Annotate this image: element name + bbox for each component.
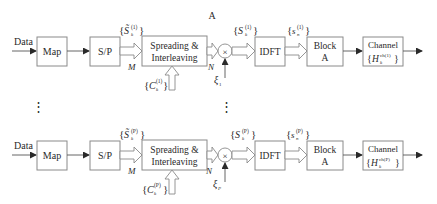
svg-text:n: n: [297, 32, 300, 37]
svg-text:C: C: [147, 184, 154, 195]
svg-text:k: k: [242, 136, 245, 141]
svg-text:k: k: [156, 87, 159, 92]
xi-signal-label: ξ 1: [214, 74, 222, 87]
data-input-label: Data: [14, 140, 33, 151]
multiplier-symbol: ×: [222, 47, 227, 57]
spreading-label-line1: Spreading &: [150, 145, 199, 155]
svg-text:n: n: [296, 136, 299, 141]
svg-text:}: }: [140, 128, 145, 140]
s-tilde-signal-label: { S̃ (1) k }: [119, 24, 144, 37]
s-signal-label: { S (1) k }: [233, 24, 258, 37]
spreading-label-line1: Spreading &: [150, 41, 199, 51]
title-label: A: [208, 10, 216, 21]
svg-text:H: H: [371, 54, 380, 64]
svg-text:(P): (P): [296, 128, 303, 135]
code-signal-label: { C (P) k }: [142, 182, 168, 196]
svg-text:(1): (1): [245, 24, 252, 31]
idft-to-block-a-bus-arrow: [285, 147, 307, 163]
n-label: N: [205, 166, 213, 176]
spreading-label-line2: Interleaving: [152, 157, 198, 167]
data-input-label: Data: [14, 36, 33, 47]
svg-text:s: s: [291, 130, 295, 140]
svg-text:ch(P): ch(P): [379, 157, 390, 162]
spreading-to-mult-bus-arrow: [207, 147, 218, 163]
idft-to-block-a-bus-arrow: [285, 43, 307, 59]
channel-label: Channel: [368, 144, 398, 154]
svg-text:k: k: [131, 32, 134, 37]
svg-text:}: }: [251, 128, 256, 140]
block-a-label-line1: Block: [314, 41, 337, 51]
chain-row-1: Data Map S/P { S̃ (1) k } M Spreading & …: [12, 24, 422, 92]
svg-text:(P): (P): [154, 182, 161, 189]
block-a-label-line2: A: [322, 157, 329, 167]
svg-text:}: }: [395, 157, 400, 168]
svg-text:(1): (1): [131, 24, 138, 31]
svg-text:}: }: [305, 128, 310, 140]
idft-label: IDFT: [259, 151, 280, 161]
svg-text:}: }: [253, 24, 258, 36]
svg-text:S: S: [235, 129, 240, 140]
sp-label: S/P: [98, 150, 112, 161]
chain-row-p: Data Map S/P { S̃ (P) k } M Spreading & …: [12, 128, 422, 196]
block-a-label-line2: A: [322, 53, 329, 63]
svg-text:S̃: S̃: [124, 128, 129, 140]
ellipsis-middle: ⋮: [220, 99, 233, 114]
code-signal-label: { C (1) k }: [144, 78, 168, 92]
svg-text:}: }: [163, 183, 168, 195]
svg-text:1: 1: [219, 82, 222, 87]
multiplier-symbol: ×: [222, 151, 227, 161]
sp-to-spreading-bus-arrow: [120, 43, 142, 59]
svg-text:(1): (1): [297, 24, 304, 31]
map-label: Map: [43, 150, 61, 161]
svg-text:S̃: S̃: [124, 24, 129, 36]
svg-text:(1): (1): [156, 78, 163, 85]
s-signal-label: { S (P) k }: [230, 128, 256, 141]
svg-text:k: k: [154, 191, 157, 196]
svg-text:k: k: [245, 32, 248, 37]
svg-text:C: C: [149, 80, 156, 91]
svg-text:s: s: [292, 26, 296, 36]
svg-text:}: }: [139, 24, 144, 36]
xi-signal-label: ξ P: [213, 178, 221, 191]
svg-text:(P): (P): [242, 128, 249, 135]
svg-text:S: S: [238, 25, 243, 36]
sn-signal-label: { s (P) n }: [286, 128, 310, 141]
sn-signal-label: { s (1) n }: [287, 24, 310, 37]
svg-text:(P): (P): [131, 128, 138, 135]
svg-text:}: }: [394, 53, 399, 64]
svg-text:}: }: [163, 79, 168, 91]
svg-text:ch(1): ch(1): [380, 53, 391, 58]
block-a-label-line1: Block: [314, 145, 337, 155]
mult-to-idft-bus-arrow: [232, 147, 255, 163]
spreading-label-line2: Interleaving: [152, 53, 198, 63]
m-label: M: [127, 62, 136, 72]
svg-text:P: P: [217, 186, 221, 191]
mult-to-idft-bus-arrow: [232, 43, 255, 59]
m-label: M: [127, 166, 136, 176]
idft-label: IDFT: [259, 47, 280, 57]
ellipsis-left: ⋮: [32, 99, 45, 114]
svg-text:H: H: [370, 158, 379, 168]
sp-to-spreading-bus-arrow: [120, 147, 142, 163]
spreading-to-mult-bus-arrow: [207, 43, 218, 59]
s-tilde-signal-label: { S̃ (P) k }: [119, 128, 145, 141]
channel-label: Channel: [368, 40, 398, 50]
map-label: Map: [43, 46, 61, 57]
svg-text:k: k: [131, 136, 134, 141]
sp-label: S/P: [98, 46, 112, 57]
svg-text:}: }: [305, 24, 310, 36]
block-diagram: A Data Map S/P { S̃ (1) k } M Spreading …: [0, 0, 437, 204]
n-label: N: [207, 62, 215, 72]
